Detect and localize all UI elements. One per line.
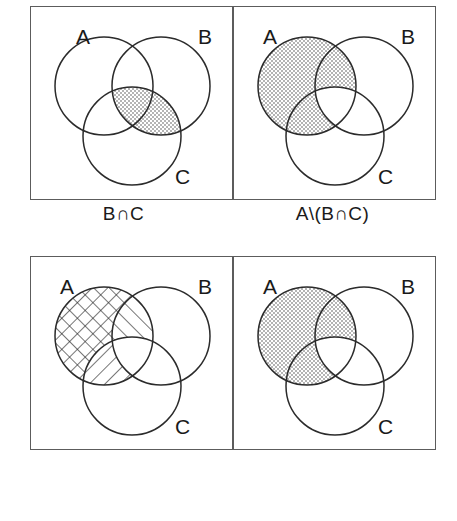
panel-b-intersect-c: A B C [30, 6, 233, 200]
circle-label-b: B [198, 275, 212, 298]
figure-row-bottom: A B C [0, 250, 457, 521]
figure-row-top: A B C [0, 0, 457, 245]
circle-label-c: C [378, 415, 393, 438]
figure-sheet: A B C [0, 0, 457, 521]
venn-diagram-2: A B C [233, 6, 436, 200]
circle-label-c: C [378, 165, 393, 188]
caption-panel-2: A\(B∩C) [231, 203, 434, 225]
panel-a-minus-b-and-a-minus-c: A B C [30, 256, 233, 450]
circle-label-b: B [401, 25, 415, 48]
panel-union-of-differences: A B C [233, 256, 436, 450]
circle-label-a: A [263, 25, 277, 48]
circle-label-a: A [60, 275, 74, 298]
venn-diagram-4: A B C [233, 256, 436, 450]
circle-label-a: A [76, 25, 90, 48]
caption-panel-1: B∩C [22, 203, 225, 225]
circle-label-a: A [263, 275, 277, 298]
circle-label-b: B [401, 275, 415, 298]
panel-a-minus-b-intersect-c: A B C [233, 6, 436, 200]
circle-label-c: C [175, 415, 190, 438]
circle-label-c: C [175, 165, 190, 188]
venn-diagram-1: A B C [30, 6, 233, 200]
circle-label-b: B [198, 25, 212, 48]
circle-a [55, 37, 153, 135]
venn-diagram-3: A B C [30, 256, 233, 450]
